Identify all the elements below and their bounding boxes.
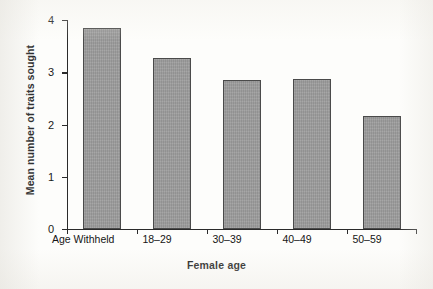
bar-chart-figure: Mean number of traits sought 0 1 2 3 4 bbox=[0, 0, 433, 289]
x-axis-title: Female age bbox=[0, 259, 433, 271]
y-tick-label-1: 1 bbox=[48, 171, 54, 183]
x-tick-label-40-49: 40–49 bbox=[272, 233, 322, 245]
bar-30-39 bbox=[223, 80, 261, 229]
y-tick-label-2: 2 bbox=[48, 119, 54, 131]
x-axis-line bbox=[67, 229, 417, 230]
bar-40-49 bbox=[293, 79, 331, 229]
y-tick-mark-4: 4 bbox=[62, 20, 67, 21]
y-axis-line bbox=[67, 20, 68, 229]
y-tick-mark-3: 3 bbox=[62, 72, 67, 73]
x-tick-label-age-withheld: Age Withheld bbox=[52, 233, 112, 245]
y-tick-label-4: 4 bbox=[48, 14, 54, 26]
y-tick-mark-1: 1 bbox=[62, 177, 67, 178]
x-tick-label-30-39: 30–39 bbox=[202, 233, 252, 245]
plot-area: 0 1 2 3 4 bbox=[67, 20, 417, 229]
y-axis-title: Mean number of traits sought bbox=[24, 10, 36, 230]
y-tick-label-3: 3 bbox=[48, 66, 54, 78]
x-tick-label-50-59: 50–59 bbox=[342, 233, 392, 245]
bar-50-59 bbox=[363, 116, 401, 229]
x-tick-mark-5 bbox=[416, 229, 417, 234]
bar-18-29 bbox=[153, 58, 191, 229]
bar-age-withheld bbox=[83, 28, 121, 229]
x-tick-label-18-29: 18–29 bbox=[132, 233, 182, 245]
y-tick-mark-2: 2 bbox=[62, 125, 67, 126]
